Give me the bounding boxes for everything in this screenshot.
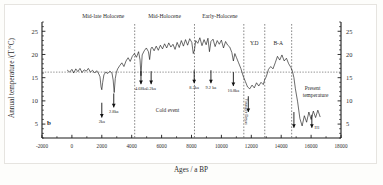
event-9-2ka-head (209, 80, 213, 84)
period-divider-lines (135, 24, 292, 138)
x-tick-label-7: 12000 (245, 143, 258, 149)
event-h1-head (310, 124, 314, 128)
event-label-event-2-8ka: 2.8ka (109, 109, 119, 114)
y-tick-label-right-4: 25 (346, 28, 352, 35)
x-tick-label-9: 16000 (305, 143, 318, 149)
x-tick-label-4: 6000 (156, 143, 167, 149)
period-label-early-holocene: Early-Holocene (202, 13, 238, 19)
period-label-mid-late-holocene: Mid-late Holocene (82, 13, 125, 19)
figure-root: -200002000400060008000100001200014000160… (0, 0, 383, 185)
period-label-bolling-allerod: B-A (273, 40, 283, 46)
event-10-8ka-head (231, 82, 235, 86)
event-label-event-h1: H1 (314, 125, 319, 130)
event-5-2ka-head (149, 81, 153, 85)
x-tick-label-8: 14000 (275, 143, 288, 149)
event-4-68ka-head (139, 81, 143, 85)
event-label-event-2ka: 2ka (99, 119, 105, 124)
y-tick-label-left-4: 25 (32, 28, 38, 35)
y-tick-label-left-3: 20 (32, 51, 38, 58)
x-axis-title: Ages / a BP (174, 166, 208, 174)
chart-annotations: Mid-late HoloceneMid-HoloceneEarly-Holoc… (82, 13, 329, 130)
x-tick-label-0: -2000 (36, 143, 49, 149)
y-tick-label-right-3: 20 (346, 51, 352, 58)
y-tick-label-right-2: 15 (346, 74, 352, 81)
y-tick-label-left-0: 5 (35, 120, 38, 127)
event-label-event-9-2ka: 9.2 ka (206, 85, 217, 90)
temperature-timeseries-chart: -200002000400060008000100001200014000160… (0, 0, 383, 185)
event-2ka-head (100, 114, 104, 118)
event-label-event-younger-dryas: Younger Dryas (244, 98, 249, 125)
y-axis-title: Annual temperature /(T/°C) (8, 37, 16, 118)
x-tick-label-10: 18000 (335, 143, 348, 149)
event-label-event-5-2ka: 5.2ka (146, 86, 156, 91)
x-tick-label-2: 2000 (97, 143, 108, 149)
x-tick-label-5: 8000 (186, 143, 197, 149)
note-cold-event-note: Cold event (156, 107, 180, 113)
note-present-temperature-note-line2: temperature (303, 92, 329, 98)
panel-label: b (47, 119, 51, 127)
chart-canvas: -200002000400060008000100001200014000160… (0, 0, 383, 185)
axes-group (42, 22, 341, 138)
x-tick-label-3: 4000 (127, 143, 138, 149)
period-label-mid-holocene: Mid-Holocene (148, 13, 181, 19)
y-tick-label-right-0: 5 (346, 120, 349, 127)
event-h1-left-head (292, 124, 296, 128)
event-label-event-4-68ka: 4.68ka (135, 86, 147, 91)
event-2-8ka-head (112, 104, 116, 108)
event-8-2ka-head (192, 80, 196, 84)
event-arrows (100, 70, 314, 128)
period-label-younger-dryas-short: Y.D (250, 40, 259, 46)
x-tick-label-1: 0 (71, 143, 74, 149)
y-tick-label-right-1: 10 (346, 97, 352, 104)
event-label-event-8-2ka: 8.2ka (189, 85, 199, 90)
y-tick-label-left-2: 15 (32, 74, 38, 81)
note-present-temperature-note-line1: Present (305, 85, 321, 91)
y-tick-label-left-1: 10 (32, 97, 38, 104)
x-tick-label-6: 10000 (215, 143, 228, 149)
event-label-event-10-8ka: 10.8ka (227, 88, 239, 93)
